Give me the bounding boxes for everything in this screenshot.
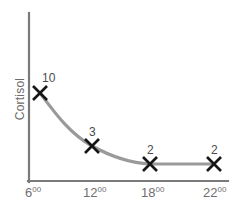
point-value-label: 2: [147, 144, 154, 156]
x-tick-label: 1200: [83, 186, 106, 199]
cortisol-line-chart: Cortisol 10 3 2 2 600 1200 1800 2200: [0, 0, 243, 214]
x-tick-label-sup: 00: [155, 185, 164, 194]
x-tick-label-sup: 00: [97, 185, 106, 194]
x-tick-label-sup: 00: [32, 185, 41, 194]
x-tick-label: 600: [25, 186, 41, 199]
point-value-label: 2: [211, 144, 218, 156]
point-value-label: 10: [42, 72, 55, 84]
x-tick-label-sup: 00: [217, 185, 226, 194]
data-point-marker: [33, 86, 47, 100]
x-tick-label: 2200: [203, 186, 226, 199]
y-axis-title: Cortisol: [13, 67, 27, 131]
x-tick-label: 1800: [141, 186, 164, 199]
chart-plot-area: [0, 0, 243, 214]
data-point-marker: [85, 139, 99, 153]
cortisol-series-line: [40, 93, 214, 164]
x-tick-label-base: 12: [83, 185, 97, 200]
point-value-label: 3: [89, 126, 96, 138]
x-tick-label-base: 22: [203, 185, 217, 200]
x-tick-label-base: 18: [141, 185, 155, 200]
